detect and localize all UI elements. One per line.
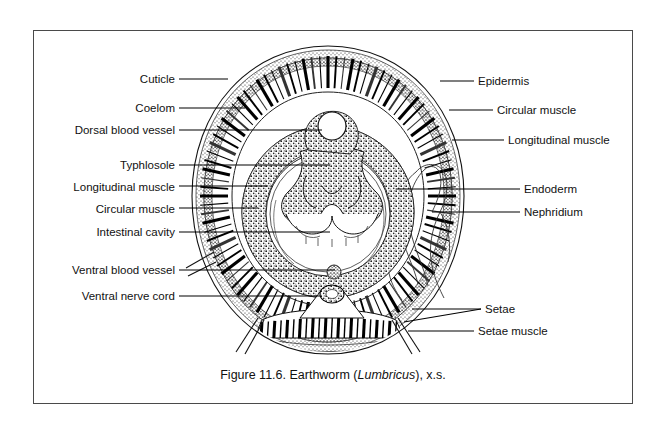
label-circular-muscle-left: Circular muscle bbox=[96, 203, 175, 215]
label-setae: Setae bbox=[485, 303, 515, 315]
figure-caption: Figure 11.6. Earthworm (Lumbricus), x.s. bbox=[33, 368, 633, 382]
label-circular-muscle-right: Circular muscle bbox=[497, 104, 576, 116]
caption-prefix: Figure 11.6. Earthworm ( bbox=[220, 368, 357, 382]
label-setae-muscle: Setae muscle bbox=[478, 325, 548, 337]
label-ventral-nerve-cord: Ventral nerve cord bbox=[82, 290, 175, 302]
label-epidermis: Epidermis bbox=[478, 75, 529, 87]
ventral-blood-vessel-structure bbox=[327, 265, 341, 279]
caption-suffix: ), x.s. bbox=[415, 368, 446, 382]
label-nephridium: Nephridium bbox=[524, 206, 583, 218]
label-longitudinal-muscle-left: Longitudinal muscle bbox=[73, 181, 175, 193]
caption-species-name: Lumbricus bbox=[358, 368, 416, 382]
label-dorsal-blood-vessel: Dorsal blood vessel bbox=[75, 124, 175, 136]
label-coelom: Coelom bbox=[135, 102, 175, 114]
label-typhlosole: Typhlosole bbox=[120, 159, 175, 171]
label-cuticle: Cuticle bbox=[140, 73, 175, 85]
label-longitudinal-muscle-right: Longitudinal muscle bbox=[508, 134, 610, 146]
label-ventral-blood-vessel: Ventral blood vessel bbox=[72, 264, 175, 276]
label-intestinal-cavity: Intestinal cavity bbox=[96, 226, 175, 238]
worm-body bbox=[186, 46, 464, 354]
label-endoderm: Endoderm bbox=[524, 183, 577, 195]
